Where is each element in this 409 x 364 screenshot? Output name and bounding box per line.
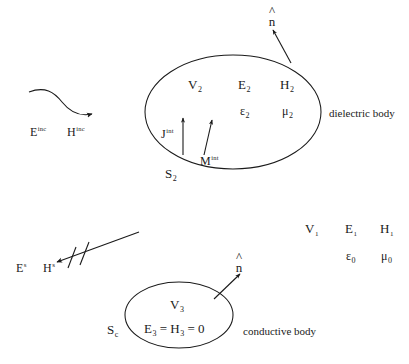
equivalent-magnetic-current-arrow [204, 120, 212, 155]
incident-e-field-label: Einc [30, 126, 46, 138]
conductive-surface-label: Sc [107, 323, 118, 336]
equivalent-magnetic-current-label: Mint [200, 155, 219, 167]
incident-wave-arrow [29, 90, 92, 115]
dielectric-normal-arrow [273, 30, 291, 63]
conductive-normal-arrow [214, 274, 240, 299]
dielectric-permittivity-label: ε2 [240, 105, 250, 117]
incident-h-field-label: Hinc [67, 126, 85, 138]
conductive-null-field-equation: E3 = H3 = 0 [144, 322, 205, 335]
conductive-volume-label: V3 [170, 298, 184, 311]
dielectric-e-field-label: E2 [238, 78, 250, 91]
dielectric-body-caption: dielectric body [329, 108, 395, 119]
dielectric-permeability-label: μ2 [282, 105, 293, 117]
exterior-h-field-label: H1 [380, 222, 393, 235]
dielectric-body-ellipse [145, 55, 321, 169]
scattered-wave-arrow [57, 232, 139, 262]
conductive-body-ellipse [125, 282, 233, 348]
dielectric-volume-label: V2 [188, 78, 202, 91]
exterior-volume-label: V1 [305, 222, 318, 235]
dielectric-normal-vector-label: ^ n [264, 8, 280, 28]
scattered-e-field-label: Es [16, 262, 27, 274]
scattered-h-field-label: Hs [43, 262, 55, 274]
exterior-permittivity-label: ε0 [346, 250, 356, 262]
exterior-permeability-label: μ0 [381, 250, 392, 262]
dielectric-surface-label: S2 [165, 167, 177, 180]
exterior-e-field-label: E1 [345, 222, 357, 235]
equivalent-electric-current-label: Jint [161, 128, 174, 140]
diagram-vector-layer [0, 0, 409, 364]
dielectric-h-field-label: H2 [280, 78, 294, 91]
scattering-diagram-figure: V2 E2 H2 ε2 μ2 Jint Mint S2 ^ n dielectr… [0, 0, 409, 364]
conductive-body-caption: conductive body [243, 326, 316, 337]
conductive-normal-vector-label: ^ n [231, 254, 247, 274]
